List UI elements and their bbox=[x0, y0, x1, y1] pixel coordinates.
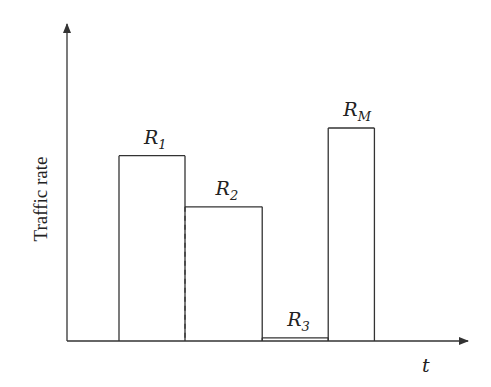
bar-rm bbox=[328, 128, 374, 341]
bar-r1 bbox=[119, 156, 185, 341]
bar-labels-group: R1R2R3RM bbox=[143, 98, 372, 334]
bars-group bbox=[119, 128, 374, 341]
bar-label-rm: RM bbox=[342, 98, 371, 124]
y-axis-label: Traffic rate bbox=[30, 157, 51, 242]
traffic-rate-diagram: Traffic rate t R1R2R3RM bbox=[0, 0, 491, 387]
x-axis-label: t bbox=[422, 354, 430, 376]
bar-label-subscript: 1 bbox=[158, 137, 166, 152]
bar-label-r1: R1 bbox=[143, 126, 167, 152]
bar-label-subscript: 2 bbox=[229, 188, 238, 203]
bar-r2 bbox=[185, 207, 262, 341]
bar-label-subscript: 3 bbox=[302, 319, 310, 334]
bar-label-r3: R3 bbox=[286, 308, 310, 334]
bar-label-r2: R2 bbox=[215, 177, 239, 203]
bar-label-subscript: M bbox=[357, 109, 372, 124]
